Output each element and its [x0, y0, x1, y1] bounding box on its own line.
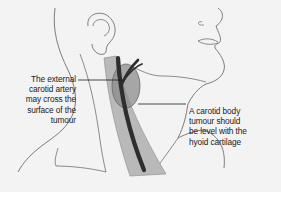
label-line: carotid artery: [4, 84, 76, 94]
label-line: tumour should: [189, 116, 279, 126]
label-line: A carotid body: [189, 106, 279, 116]
jaw-line: [130, 66, 206, 82]
label-external-carotid: The external carotid artery may cross th…: [4, 74, 76, 125]
label-line: hyoid cartilage: [189, 137, 279, 147]
shoulder-line: [55, 148, 106, 172]
label-line: The external: [4, 74, 76, 84]
face-profile-outline: [188, 8, 224, 104]
label-line: tumour: [4, 115, 76, 125]
ear-icon: [88, 13, 115, 54]
lips-outline: [198, 39, 218, 44]
neck-back-line: [80, 54, 106, 172]
label-line: surface of the: [4, 105, 76, 115]
label-line: be level with the: [189, 126, 279, 136]
label-line: may cross the: [4, 94, 76, 104]
carotid-body-tumour: [112, 64, 140, 108]
label-hyoid-level: A carotid body tumour should be level wi…: [189, 106, 279, 147]
nostril-outline: [199, 22, 205, 26]
figure-canvas: The external carotid artery may cross th…: [0, 0, 281, 215]
